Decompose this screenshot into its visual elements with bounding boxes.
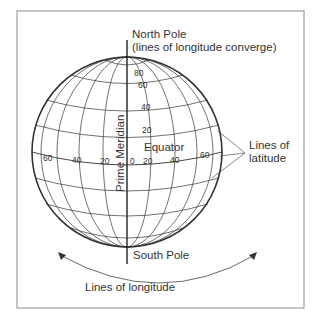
prime-meridian-label: Prime Meridian [114,115,126,192]
lon-tick-0: 0 [130,156,135,166]
lines-of-latitude-label-2: latitude [249,152,286,164]
lon-tick-w60: 60 [43,153,53,163]
lon-tick-e40: 40 [170,155,180,165]
lines-of-longitude-label: Lines of longitude [85,281,175,293]
north-pole-label: North Pole [132,28,186,40]
equator-label: Equator [144,141,184,153]
arrowhead-right-icon [249,252,257,260]
north-pole-note: (lines of longitude converge) [132,41,277,53]
lat-tick-40: 40 [141,102,151,112]
globe-diagram: North Pole (lines of longitude converge)… [0,0,318,322]
latitude-pointer [212,131,245,178]
lat-tick-60: 60 [138,80,148,90]
lines-of-latitude-label-1: Lines of [249,139,290,151]
arrowhead-left-icon [58,252,66,260]
lon-tick-e60: 60 [200,150,210,160]
lat-tick-20: 20 [142,125,152,135]
south-pole-label: South Pole [133,249,189,261]
lon-tick-w40: 40 [72,155,82,165]
lon-tick-e20: 20 [143,156,153,166]
lat-tick-80: 80 [134,68,144,78]
lon-tick-w20: 20 [100,156,110,166]
